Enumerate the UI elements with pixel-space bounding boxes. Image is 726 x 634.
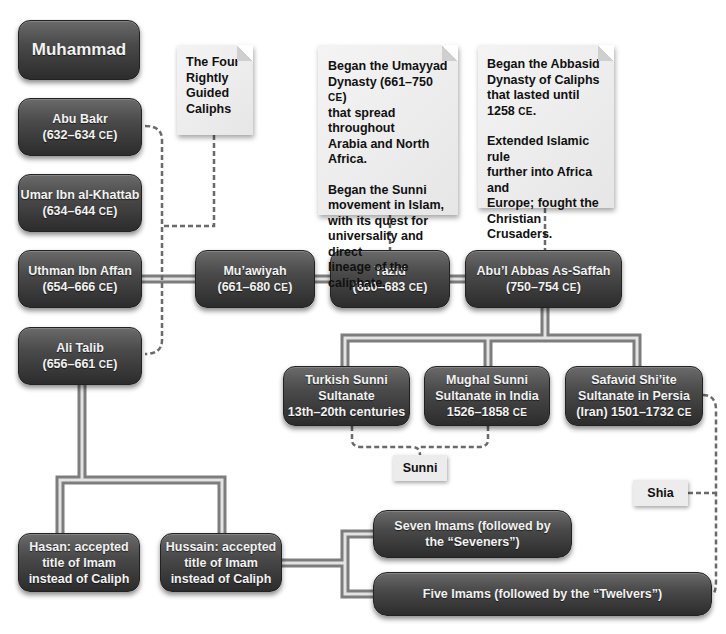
node-label: 13th–20th centuries xyxy=(288,404,405,420)
paren-text: ) xyxy=(113,280,117,294)
note-line: lineage of the caliphate. xyxy=(328,260,452,291)
node-muawiyah[interactable]: Mu’awiyah (661–680 CE) xyxy=(195,250,315,308)
note-paragraph-2: Began the Sunni movement in Islam, with … xyxy=(328,183,452,292)
node-label: Abu Bakr xyxy=(52,111,108,127)
node-label: Muhammad xyxy=(32,42,126,58)
tag-label: Sunni xyxy=(403,461,438,475)
node-five-imams[interactable]: Five Imams (followed by the “Twelvers”) xyxy=(373,572,712,616)
note-paragraph-2: Extended Islamic rule further into Afric… xyxy=(487,134,608,243)
node-years: (632–634 CE) xyxy=(43,127,118,144)
note-line: Began the Umayyad xyxy=(328,59,452,75)
note-line: Dynasty of Caliphs xyxy=(487,73,608,89)
node-label: Five Imams (followed by the “Twelvers”) xyxy=(423,586,662,602)
note-paragraph-1: Began the Abbasid Dynasty of Caliphs tha… xyxy=(487,57,608,119)
node-uthman[interactable]: Uthman Ibn Affan (654–666 CE) xyxy=(18,250,142,308)
era-text: CE xyxy=(513,407,528,418)
era-text: CE xyxy=(99,206,114,217)
era-text: CE xyxy=(518,106,533,117)
node-abul-abbas[interactable]: Abu’l Abbas As-Saffah (750–754 CE) xyxy=(465,250,622,308)
node-label: Seven Imams (followed by xyxy=(394,518,550,534)
period-text: . xyxy=(533,104,536,118)
note-abbasid-dynasty: Began the Abbasid Dynasty of Caliphs tha… xyxy=(478,45,614,208)
node-label: Safavid Shi’ite xyxy=(591,372,676,388)
node-years: (750–754 CE) xyxy=(506,279,581,296)
era-text: CE xyxy=(677,407,692,418)
node-label: Sultanate xyxy=(318,388,374,404)
note-four-rightly-guided-caliphs: The Four Rightly Guided Caliphs xyxy=(177,45,253,135)
era-text: CE xyxy=(99,130,114,141)
tag-label: Shia xyxy=(647,486,673,500)
note-line: movement in Islam, xyxy=(328,198,452,214)
years-text: (654–666 xyxy=(43,280,99,294)
era-text: CE xyxy=(328,92,343,103)
note-line: that lasted until xyxy=(487,88,608,104)
note-line: Arabia and North Africa. xyxy=(328,137,452,168)
node-label: Ali Talib xyxy=(56,340,104,356)
note-text: Dynasty (661–750 xyxy=(328,75,433,89)
paren-text: ) xyxy=(113,357,117,371)
node-hussain[interactable]: Hussain: accepted title of Imam instead … xyxy=(160,533,282,592)
node-mughal-sultanate[interactable]: Mughal Sunni Sultanate in India 1526–185… xyxy=(424,366,550,426)
era-text: CE xyxy=(562,282,577,293)
node-seven-imams[interactable]: Seven Imams (followed by the “Seveners”) xyxy=(373,510,572,558)
page-fold-icon xyxy=(598,45,614,61)
tag-sunni: Sunni xyxy=(393,455,447,481)
note-line: Extended Islamic rule xyxy=(487,134,608,165)
node-years: 1526–1858 CE xyxy=(447,404,528,421)
note-line: Europe; fought the xyxy=(487,196,608,212)
node-umar[interactable]: Umar Ibn al-Khattab (634–644 CE) xyxy=(18,174,142,232)
note-line: Began the Abbasid xyxy=(487,57,608,73)
years-text: (632–634 xyxy=(43,128,99,142)
years-text: (Iran) 1501–1732 xyxy=(576,405,677,419)
years-text: (634–644 xyxy=(43,204,99,218)
note-paragraph-1: Began the Umayyad Dynasty (661–750 CE) t… xyxy=(328,59,452,168)
node-label: Hussain: accepted xyxy=(166,539,276,555)
node-years: (661–680 CE) xyxy=(218,279,293,296)
note-line: Dynasty (661–750 CE) xyxy=(328,75,452,106)
node-label: Turkish Sunni xyxy=(305,372,387,388)
years-text: (661–680 xyxy=(218,280,274,294)
note-line: universality and direct xyxy=(328,229,452,260)
node-years: (Iran) 1501–1732 CE xyxy=(576,404,691,421)
paren-text: ) xyxy=(113,204,117,218)
node-label: Sultanate in India xyxy=(435,388,539,404)
note-line: with its quest for xyxy=(328,214,452,230)
era-text: CE xyxy=(99,282,114,293)
note-line: Caliphs xyxy=(186,102,245,118)
paren-text: ) xyxy=(113,128,117,142)
page-fold-icon xyxy=(442,45,458,61)
node-abu-bakr[interactable]: Abu Bakr (632–634 CE) xyxy=(18,98,142,156)
note-umayyad-dynasty: Began the Umayyad Dynasty (661–750 CE) t… xyxy=(318,45,458,215)
node-label: Mughal Sunni xyxy=(446,372,528,388)
node-label: Umar Ibn al-Khattab xyxy=(21,187,140,203)
note-line: Christian Crusaders. xyxy=(487,212,608,243)
node-turkish-sultanate[interactable]: Turkish Sunni Sultanate 13th–20th centur… xyxy=(283,366,410,426)
note-line: 1258 CE. xyxy=(487,104,608,120)
node-label: instead of Caliph xyxy=(171,571,272,587)
node-label: Abu’l Abbas As-Saffah xyxy=(477,263,611,279)
note-line: further into Africa and xyxy=(487,165,608,196)
page-fold-icon xyxy=(237,45,253,61)
node-years: (634–644 CE) xyxy=(43,203,118,220)
note-text: 1258 xyxy=(487,104,518,118)
years-text: (656–661 xyxy=(43,357,99,371)
node-ali-talib[interactable]: Ali Talib (656–661 CE) xyxy=(18,327,142,385)
era-text: CE xyxy=(99,359,114,370)
node-label: title of Imam xyxy=(184,555,258,571)
paren-text: ) xyxy=(577,280,581,294)
node-label: Mu’awiyah xyxy=(223,263,286,279)
node-safavid-sultanate[interactable]: Safavid Shi’ite Sultanate in Persia (Ira… xyxy=(565,366,703,426)
note-line: Began the Sunni xyxy=(328,183,452,199)
years-text: 1526–1858 xyxy=(447,405,513,419)
node-label: Sultanate in Persia xyxy=(578,388,690,404)
lineage-diagram: Muhammad Abu Bakr (632–634 CE) Umar Ibn … xyxy=(0,0,726,634)
node-years: (656–661 CE) xyxy=(43,356,118,373)
years-text: (750–754 xyxy=(506,280,562,294)
node-hasan[interactable]: Hasan: accepted title of Imam instead of… xyxy=(18,533,140,592)
note-line: Guided xyxy=(186,86,245,102)
paren-text: ) xyxy=(343,90,347,104)
node-label: title of Imam xyxy=(42,555,116,571)
node-years: (654–666 CE) xyxy=(43,279,118,296)
tag-shia: Shia xyxy=(633,480,688,506)
node-muhammad[interactable]: Muhammad xyxy=(18,20,140,80)
